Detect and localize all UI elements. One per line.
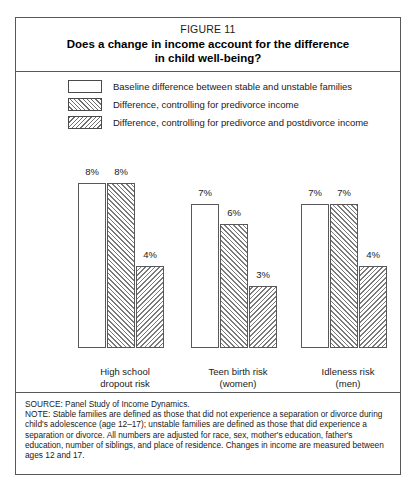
bar-predivorce[interactable]	[107, 183, 135, 348]
category-label-line-2: (men)	[322, 378, 375, 390]
bar-wrap: 4%	[136, 162, 164, 348]
bar-value-label: 7%	[330, 187, 358, 198]
bar-value-label: 8%	[107, 166, 135, 177]
figure-number: FIGURE 11	[26, 23, 390, 35]
legend-label-baseline: Baseline difference between stable and u…	[113, 81, 352, 92]
legend-label-predivorce: Difference, controlling for predivorce i…	[113, 99, 299, 110]
bar-wrap: 6%	[220, 162, 248, 348]
legend-item-baseline: Baseline difference between stable and u…	[16, 80, 400, 93]
figure-title-line-1: Does a change in income account for the …	[26, 37, 390, 51]
legend-item-predivorce: Difference, controlling for predivorce i…	[16, 98, 400, 111]
figure-frame: FIGURE 11 Does a change in income accoun…	[15, 17, 401, 475]
bar-postdivorce[interactable]	[136, 266, 164, 348]
legend-item-postdivorce: Difference, controlling for predivorce a…	[16, 116, 400, 129]
bar-group-idleness-risk: 7% 7% 4% Idleness risk (men)	[301, 162, 395, 348]
category-label-line-2: (women)	[208, 378, 267, 390]
bar-group-high-school-dropout-risk: 8% 8% 4% High school dropout risk	[78, 162, 172, 348]
category-label-idleness-risk: Idleness risk (men)	[322, 366, 375, 390]
category-label-teen-birth-risk: Teen birth risk (women)	[208, 366, 267, 390]
legend-swatch-backward-hatch-icon	[68, 116, 102, 129]
footer-note: NOTE: Stable families are defined as tho…	[25, 409, 392, 460]
category-label-high-school-dropout-risk: High school dropout risk	[100, 366, 150, 390]
bar-postdivorce[interactable]	[249, 286, 277, 348]
legend-swatch-forward-hatch-icon	[68, 98, 102, 111]
figure-title-line-2: in child well-being?	[26, 51, 390, 65]
category-label-line-1: Idleness risk	[322, 366, 375, 378]
category-label-line-1: Teen birth risk	[208, 366, 267, 378]
title-block: FIGURE 11 Does a change in income accoun…	[16, 18, 400, 72]
bar-value-label: 3%	[249, 269, 277, 280]
legend-label-postdivorce: Difference, controlling for predivorce a…	[113, 117, 368, 128]
bar-wrap: 8%	[107, 162, 135, 348]
bar-baseline[interactable]	[78, 183, 106, 348]
category-label-line-2: dropout risk	[100, 378, 150, 390]
bar-value-label: 7%	[301, 187, 329, 198]
bar-value-label: 8%	[78, 166, 106, 177]
bar-wrap: 3%	[249, 162, 277, 348]
bar-baseline[interactable]	[301, 204, 329, 348]
category-label-line-1: High school	[100, 366, 150, 378]
bar-predivorce[interactable]	[330, 204, 358, 348]
bar-wrap: 7%	[191, 162, 219, 348]
bar-group-teen-birth-risk: 7% 6% 3% Teen birth risk (women)	[191, 162, 285, 348]
figure-footer: SOURCE: Panel Study of Income Dynamics. …	[16, 392, 400, 466]
bar-value-label: 4%	[136, 249, 164, 260]
bar-wrap: 7%	[301, 162, 329, 348]
bar-wrap: 8%	[78, 162, 106, 348]
bar-group-bars: 7% 7% 4%	[301, 162, 395, 348]
legend-swatch-plain-icon	[68, 80, 102, 93]
bar-value-label: 4%	[359, 249, 387, 260]
bar-group-bars: 7% 6% 3%	[191, 162, 285, 348]
bar-group-bars: 8% 8% 4%	[78, 162, 172, 348]
bar-chart-plot-area: 8% 8% 4% High school dropout risk	[16, 142, 400, 392]
bar-value-label: 7%	[191, 187, 219, 198]
page-title: Does a change in income account for the …	[26, 37, 390, 65]
bar-wrap: 7%	[330, 162, 358, 348]
bar-baseline[interactable]	[191, 204, 219, 348]
bar-wrap: 4%	[359, 162, 387, 348]
bar-postdivorce[interactable]	[359, 266, 387, 348]
bar-predivorce[interactable]	[220, 224, 248, 348]
bar-value-label: 6%	[220, 207, 248, 218]
chart-legend: Baseline difference between stable and u…	[16, 72, 400, 138]
footer-source: SOURCE: Panel Study of Income Dynamics.	[25, 399, 392, 409]
